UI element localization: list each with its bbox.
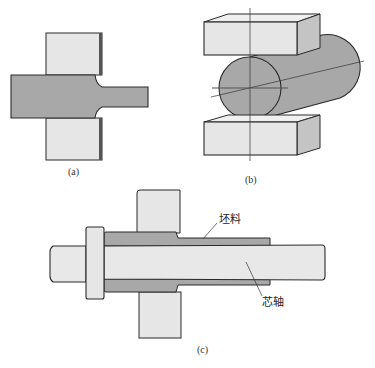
blank-label: 坯料: [219, 212, 241, 226]
mandrel-collar: [86, 227, 104, 299]
panel-a: (a): [11, 33, 148, 178]
upper-die-a: [46, 33, 102, 75]
blank-upper-wall: [104, 232, 270, 246]
blank-lower-wall: [104, 279, 270, 292]
mandrel-label: 芯轴: [262, 295, 284, 309]
lower-die-b: [204, 115, 320, 155]
panel-c: 坯料 芯轴 (c): [50, 190, 325, 356]
caption-b: (b): [245, 174, 257, 186]
mandrel: [104, 245, 325, 280]
workpiece-a: [11, 75, 148, 118]
upper-die-c: [137, 190, 180, 233]
panel-b: (b): [204, 8, 364, 186]
upper-die-b: [204, 14, 320, 55]
lower-die-c: [139, 292, 181, 338]
mandrel-stub: [50, 246, 86, 282]
blank-leader-line: [203, 223, 217, 239]
caption-c: (c): [197, 344, 208, 356]
caption-a: (a): [68, 166, 79, 178]
forging-diagram: (a) (b): [0, 0, 375, 368]
lower-die-a: [46, 118, 102, 160]
